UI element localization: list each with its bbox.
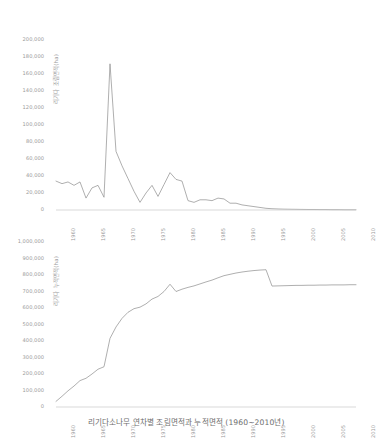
chart-cumulative-afforestation: 1,000,000900,000800,000700,000600,000500… xyxy=(0,228,372,418)
y-tick-label: 800,000 xyxy=(23,272,44,277)
y-tick-label: 300,000 xyxy=(23,355,44,360)
y-tick-label: 180,000 xyxy=(23,54,44,59)
y-tick-label: 100,000 xyxy=(23,122,44,127)
plot-area-bottom xyxy=(56,242,356,407)
y-axis-labels-top: 200,000180,000160,000140,000120,000100,0… xyxy=(0,40,46,210)
x-tick-label: 1980 xyxy=(191,215,196,228)
x-tick-label: 1975 xyxy=(161,215,166,228)
y-tick-label: 0 xyxy=(41,207,44,212)
y-tick-label: 120,000 xyxy=(23,105,44,110)
y-tick-label: 200,000 xyxy=(23,37,44,42)
y-tick-label: 60,000 xyxy=(26,156,44,161)
y-tick-label: 1,000,000 xyxy=(18,239,44,244)
x-tick-label: 1990 xyxy=(251,215,256,228)
series-line-top xyxy=(56,64,356,210)
x-tick-label: 1985 xyxy=(221,215,226,228)
y-tick-label: 40,000 xyxy=(26,173,44,178)
figure-caption: 리기다소나무 연차별 조림면적과 누적면적 (1960~2010년) xyxy=(0,416,372,427)
y-tick-label: 160,000 xyxy=(23,71,44,76)
y-axis-labels-bottom: 1,000,000900,000800,000700,000600,000500… xyxy=(0,242,46,407)
y-tick-label: 500,000 xyxy=(23,322,44,327)
y-tick-label: 900,000 xyxy=(23,256,44,261)
y-tick-label: 140,000 xyxy=(23,88,44,93)
x-tick-label: 2005 xyxy=(341,215,346,228)
y-tick-label: 80,000 xyxy=(26,139,44,144)
series-line-bottom xyxy=(56,270,356,402)
y-tick-label: 0 xyxy=(41,404,44,409)
chart-annual-afforestation: 200,000180,000160,000140,000120,000100,0… xyxy=(0,18,372,213)
x-tick-label: 2010 xyxy=(371,215,376,228)
x-tick-label: 1965 xyxy=(101,215,106,228)
x-tick-label: 1995 xyxy=(281,215,286,228)
x-tick-label: 1960 xyxy=(71,215,76,228)
x-tick-label: 1970 xyxy=(131,215,136,228)
y-tick-label: 700,000 xyxy=(23,289,44,294)
y-tick-label: 100,000 xyxy=(23,388,44,393)
x-tick-label: 2000 xyxy=(311,215,316,228)
y-tick-label: 600,000 xyxy=(23,305,44,310)
y-tick-label: 20,000 xyxy=(26,190,44,195)
y-tick-label: 400,000 xyxy=(23,338,44,343)
plot-area-top xyxy=(56,40,356,210)
y-tick-label: 200,000 xyxy=(23,371,44,376)
